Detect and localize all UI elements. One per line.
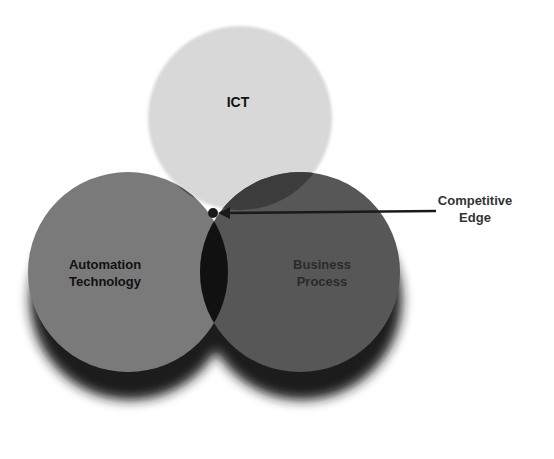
business-label-line1: Business xyxy=(262,256,382,273)
ict-label: ICT xyxy=(208,94,268,111)
venn-diagram xyxy=(0,0,554,459)
edge-dot xyxy=(208,208,218,218)
automation-label: Automation Technology xyxy=(45,256,165,290)
automation-label-line1: Automation xyxy=(45,256,165,273)
business-label-line2: Process xyxy=(262,273,382,290)
competitive-edge-line1: Competitive xyxy=(420,192,530,209)
competitive-edge-line2: Edge xyxy=(420,209,530,226)
automation-label-line2: Technology xyxy=(45,273,165,290)
business-label: Business Process xyxy=(262,256,382,290)
competitive-edge-label: Competitive Edge xyxy=(420,192,530,226)
